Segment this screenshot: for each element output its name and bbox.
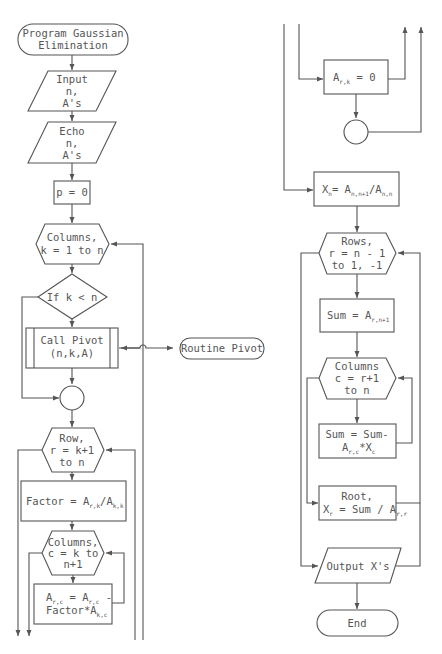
decision-label: If k < n [47,291,98,303]
zero-process: Ar,k = 0 [324,60,388,94]
decision-diamond: If k < n [38,274,107,319]
factor-expression: Factor = Ar,k/Ak,k [26,495,124,509]
output-label: Output X's [326,560,389,572]
loop-k-hexagon: Columns, k = 1 to n [36,224,109,264]
input-line2: n, [66,85,79,97]
loop-k-line2: k = 1 to n [40,244,103,256]
loop-rows-line3: to 1, -1 [332,259,383,271]
start-label-line1: Program Gaussian [22,27,123,39]
factor-process: Factor = Ar,k/Ak,k [21,481,126,521]
root-process: Root, Xr = Sum / Ar,r [319,486,407,520]
start-label-line2: Elimination [38,39,108,51]
call-pivot-subroutine: Call Pivot (n,k,A) [26,328,118,368]
loop-cols-line2: c = r+1 [335,372,379,384]
routine-pivot-terminal: Routine Pivot [180,338,264,359]
loop-r-line1: Row, [59,432,84,444]
init-label: p = 0 [56,186,88,198]
root-line1: Root, [341,490,373,502]
input-line3: A's [63,97,82,109]
loop-cols-exit [307,378,319,503]
echo-line1: Echo [59,125,84,137]
sum-update-line1: Sum = Sum- [325,428,388,440]
output-node: Output X's [315,548,401,583]
loop-rows-line2: r = n - 1 [329,247,386,259]
call-pivot-line1: Call Pivot [40,334,103,346]
input-line1: Input [56,73,88,85]
input-node: Input n, A's [28,71,116,111]
loop-cols-line1: Columns [335,360,379,372]
end-label: End [348,617,367,629]
sum-init-process: Sum = Ar,n+1 [320,299,394,332]
sum-update-process: Sum = Sum- Ar,c*Xc [319,424,396,458]
loop-k-return [111,244,143,640]
echo-line2: n, [66,137,79,149]
init-process: p = 0 [54,181,90,204]
loop-rows-exit [301,253,319,566]
call-pivot-line2: (n,k,A) [50,347,94,359]
xn-process: Xn= An,n+1/An,n [314,172,399,206]
loop-c-line3: n+1 [64,558,83,570]
echo-line3: A's [63,149,82,161]
loop-c-return-out [388,27,405,79]
sum-update-line2: Ar,c*Xc [342,441,376,455]
loop-k-line1: Columns, [47,231,98,243]
loop-r-line3: to n [59,456,84,468]
update-process: Ar,c = Ar,c - Factor*Ak,c [34,584,112,624]
loop-r-hexagon: Row, r = k+1 to n [42,428,104,472]
connector-circle [60,386,84,410]
routine-pivot-label: Routine Pivot [181,342,263,354]
connector-circle-right [344,120,368,144]
loop-r-line2: r = k+1 [50,444,94,456]
loop-c-hexagon: Columns, c = k to n+1 [42,531,104,575]
gaussian-elimination-flowchart: Program Gaussian Elimination Input n, A'… [0,0,442,654]
loop-rows-hexagon: Rows, r = n - 1 to 1, -1 [319,233,396,274]
end-terminal: End [317,610,398,636]
loop-cols-hexagon: Columns c = r+1 to n [319,358,396,399]
root-line2: Xr = Sum / Ar,r [323,503,407,517]
loop-cols-line3: to n [344,384,369,396]
echo-node: Echo n, A's [28,122,116,163]
loop-cols-return [396,378,412,443]
start-terminal: Program Gaussian Elimination [18,24,128,55]
loop-r-exit-in [299,24,323,79]
loop-rows-line1: Rows, [341,235,373,247]
